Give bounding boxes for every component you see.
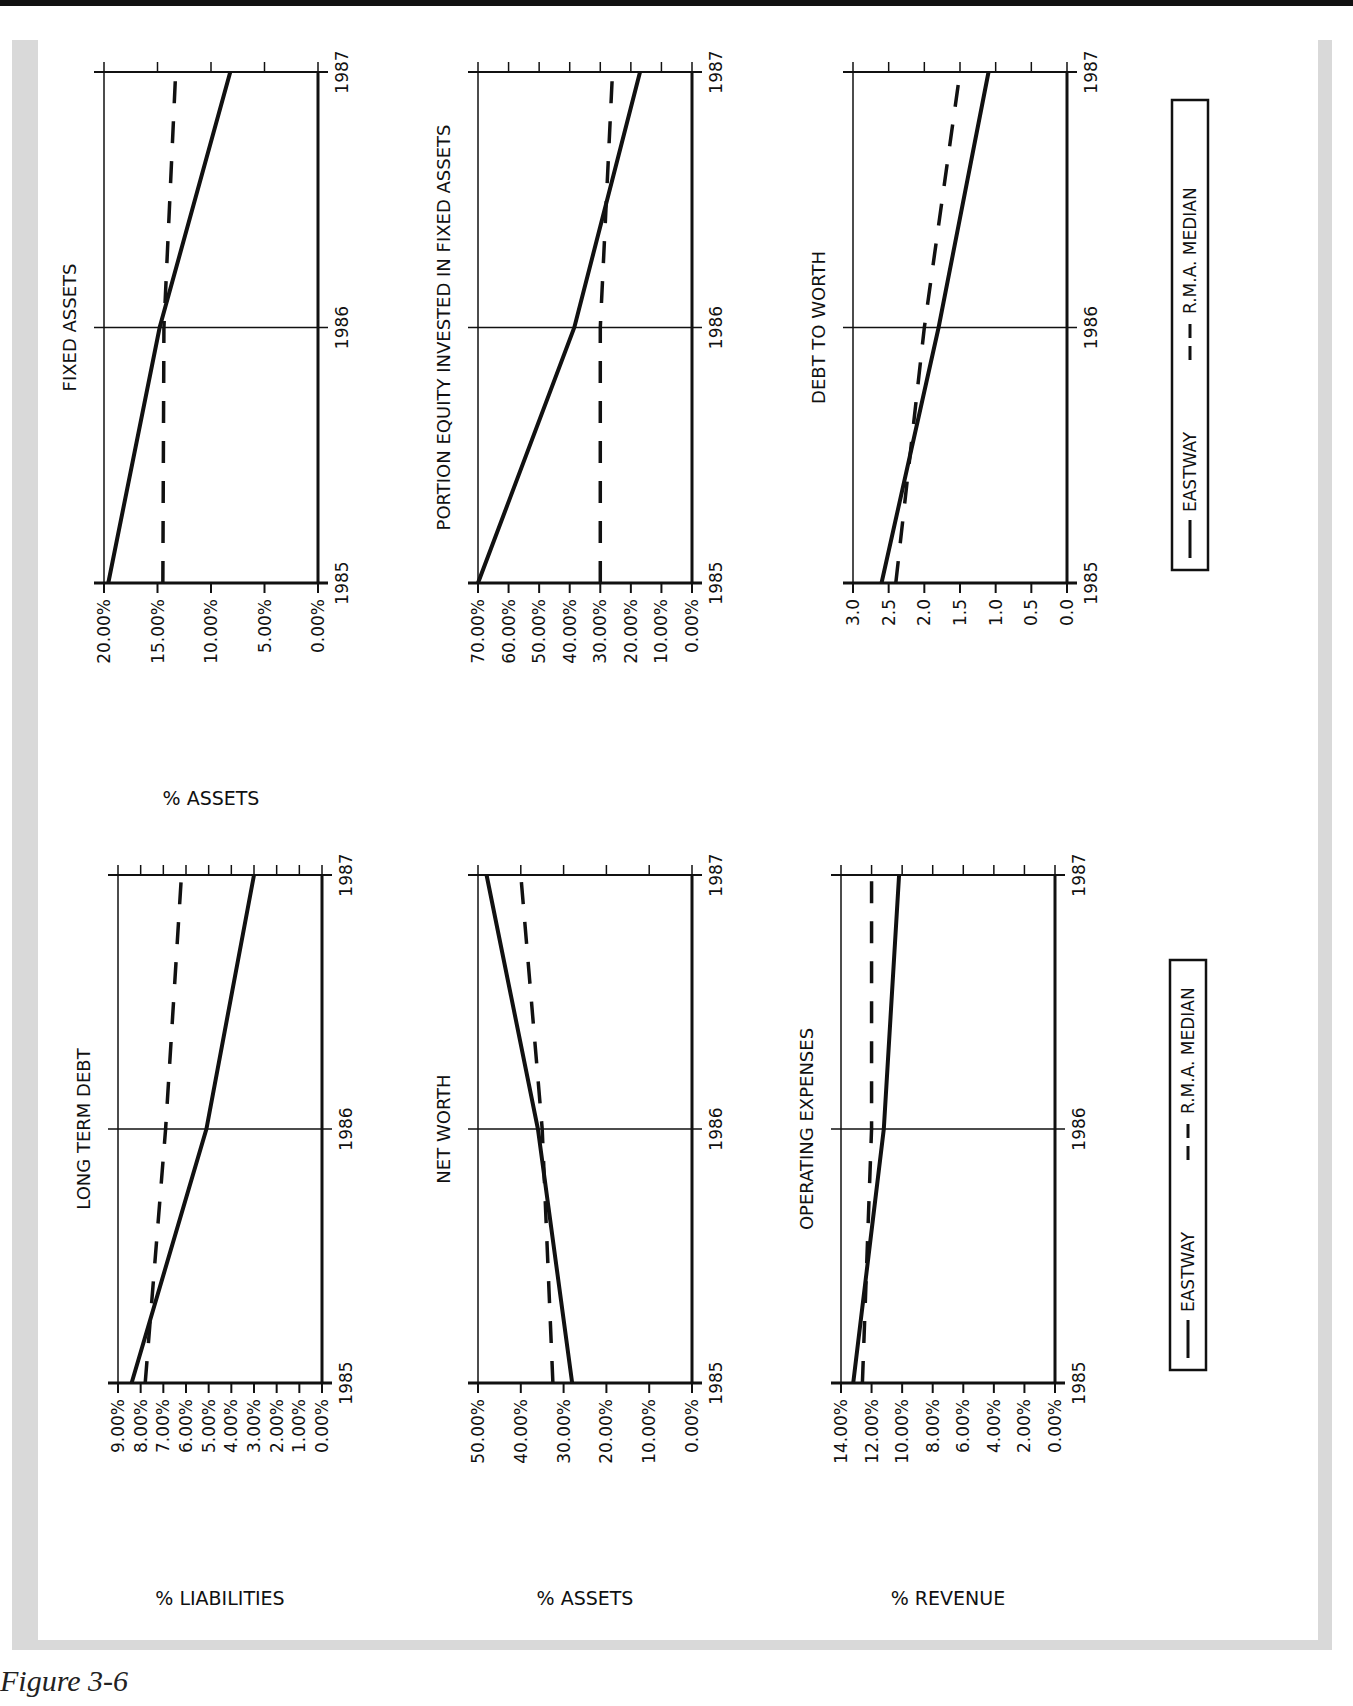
- chart-title: DEBT TO WORTH: [808, 251, 829, 404]
- year-label: 1986: [1069, 1107, 1089, 1150]
- tick-label: 0.00%: [682, 1399, 702, 1453]
- year-label: 1985: [1069, 1361, 1089, 1404]
- year-label: 1987: [1069, 853, 1089, 896]
- tick-label: 2.5: [879, 599, 899, 626]
- year-label: 1987: [1081, 50, 1101, 93]
- year-label: 1985: [1081, 561, 1101, 604]
- year-label: 1985: [706, 1361, 726, 1404]
- tick-label: 40.00%: [511, 1399, 531, 1464]
- year-label: 1987: [336, 853, 356, 896]
- tick-label: 0.00%: [1045, 1399, 1065, 1453]
- tick-label: 50.00%: [529, 599, 549, 664]
- unit-label: % ASSETS: [537, 1587, 634, 1609]
- chart-title: NET WORTH: [433, 1074, 454, 1183]
- tick-label: 4.00%: [221, 1399, 241, 1453]
- chart-net-worth: 50.00%40.00%30.00%20.00%10.00%0.00%19851…: [433, 853, 726, 1609]
- year-label: 1985: [336, 1361, 356, 1404]
- tick-label: 9.00%: [108, 1399, 128, 1453]
- tick-label: 20.00%: [621, 599, 641, 664]
- tick-label: 10.00%: [639, 1399, 659, 1464]
- legend-label-eastway: EASTWAY: [1180, 431, 1200, 512]
- year-label: 1987: [706, 50, 726, 93]
- chart-portion-equity-invested-in-fixed-assets: 70.00%60.00%50.00%40.00%30.00%20.00%10.0…: [433, 50, 726, 663]
- tick-label: 0.00%: [308, 599, 328, 653]
- chart-title: PORTION EQUITY INVESTED IN FIXED ASSETS: [433, 125, 454, 531]
- tick-label: 30.00%: [590, 599, 610, 664]
- figure-svg: 9.00%8.00%7.00%6.00%5.00%4.00%3.00%2.00%…: [0, 0, 1353, 1706]
- tick-label: 7.00%: [153, 1399, 173, 1453]
- tick-label: 8.00%: [923, 1399, 943, 1453]
- chart-long-term-debt: 9.00%8.00%7.00%6.00%5.00%4.00%3.00%2.00%…: [73, 853, 356, 1609]
- tick-label: 20.00%: [596, 1399, 616, 1464]
- tick-label: 30.00%: [554, 1399, 574, 1464]
- tick-label: 2.00%: [1014, 1399, 1034, 1453]
- legend: EASTWAYR.M.A. MEDIAN: [1172, 100, 1208, 570]
- tick-label: 2.00%: [267, 1399, 287, 1453]
- legend-label-eastway: EASTWAY: [1178, 1231, 1198, 1312]
- year-label: 1987: [706, 853, 726, 896]
- year-label: 1987: [332, 50, 352, 93]
- legend: EASTWAYR.M.A. MEDIAN: [1170, 960, 1206, 1370]
- year-label: 1985: [706, 561, 726, 604]
- legend-label-rma-median: R.M.A. MEDIAN: [1178, 987, 1198, 1114]
- tick-label: 6.00%: [176, 1399, 196, 1453]
- tick-label: 0.00%: [682, 599, 702, 653]
- tick-label: 1.0: [986, 599, 1006, 626]
- tick-label: 5.00%: [199, 1399, 219, 1453]
- tick-label: 10.00%: [651, 599, 671, 664]
- unit-label: % LIABILITIES: [155, 1587, 284, 1609]
- tick-label: 10.00%: [892, 1399, 912, 1464]
- chart-title: OPERATING EXPENSES: [796, 1028, 817, 1230]
- unit-label: % ASSETS: [163, 787, 260, 809]
- tick-label: 70.00%: [468, 599, 488, 664]
- tick-label: 14.00%: [831, 1399, 851, 1464]
- tick-label: 60.00%: [499, 599, 519, 664]
- chart-title: LONG TERM DEBT: [73, 1047, 94, 1209]
- tick-label: 1.5: [950, 599, 970, 626]
- tick-label: 3.0: [843, 599, 863, 626]
- unit-label: % REVENUE: [891, 1587, 1005, 1609]
- tick-label: 0.00%: [312, 1399, 332, 1453]
- tick-label: 20.00%: [94, 599, 114, 664]
- chart-fixed-assets: 20.00%15.00%10.00%5.00%0.00%198519861987…: [59, 50, 352, 809]
- tick-label: 50.00%: [468, 1399, 488, 1464]
- chart-debt-to-worth: 3.02.52.01.51.00.50.0198519861987DEBT TO…: [808, 50, 1101, 626]
- tick-label: 10.00%: [201, 599, 221, 664]
- tick-label: 6.00%: [953, 1399, 973, 1453]
- tick-label: 40.00%: [560, 599, 580, 664]
- chart-title: FIXED ASSETS: [59, 264, 80, 392]
- tick-label: 5.00%: [255, 599, 275, 653]
- chart-operating-expenses: 14.00%12.00%10.00%8.00%6.00%4.00%2.00%0.…: [796, 853, 1089, 1609]
- legend-label-rma-median: R.M.A. MEDIAN: [1180, 187, 1200, 314]
- figure-caption: Figure 3-6: [0, 1664, 128, 1698]
- tick-label: 0.5: [1021, 599, 1041, 626]
- tick-label: 2.0: [914, 599, 934, 626]
- tick-label: 1.00%: [289, 1399, 309, 1453]
- year-label: 1986: [332, 306, 352, 349]
- year-label: 1986: [706, 1107, 726, 1150]
- year-label: 1985: [332, 561, 352, 604]
- tick-label: 15.00%: [148, 599, 168, 664]
- tick-label: 0.0: [1057, 599, 1077, 626]
- tick-label: 12.00%: [862, 1399, 882, 1464]
- tick-label: 8.00%: [131, 1399, 151, 1453]
- tick-label: 4.00%: [984, 1399, 1004, 1453]
- year-label: 1986: [706, 306, 726, 349]
- year-label: 1986: [336, 1107, 356, 1150]
- tick-label: 3.00%: [244, 1399, 264, 1453]
- year-label: 1986: [1081, 306, 1101, 349]
